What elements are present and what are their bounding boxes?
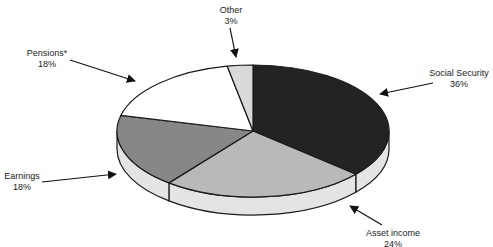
label-asset-income: Asset income 24% bbox=[355, 228, 431, 247]
label-pensions-name: Pensions* bbox=[22, 48, 72, 59]
label-asset-income-pct: 24% bbox=[355, 239, 431, 247]
label-asset-income-name: Asset income bbox=[355, 228, 431, 239]
arrow-other bbox=[230, 28, 236, 57]
label-pensions-pct: 18% bbox=[22, 59, 72, 70]
label-pensions: Pensions* 18% bbox=[22, 48, 72, 70]
label-social-security-name: Social Security bbox=[425, 68, 493, 79]
label-other-name: Other bbox=[215, 5, 247, 16]
pie-top-face bbox=[117, 65, 389, 197]
label-other-pct: 3% bbox=[215, 16, 247, 27]
label-earnings-pct: 18% bbox=[0, 182, 44, 193]
label-other: Other 3% bbox=[215, 5, 247, 27]
label-social-security: Social Security 36% bbox=[425, 68, 493, 90]
arrow-earnings bbox=[42, 174, 116, 182]
label-social-security-pct: 36% bbox=[425, 79, 493, 90]
pie-chart bbox=[0, 0, 493, 247]
label-earnings: Earnings 18% bbox=[0, 171, 44, 193]
arrow-pensions bbox=[70, 60, 135, 81]
arrow-asset-income bbox=[350, 206, 382, 225]
label-earnings-name: Earnings bbox=[0, 171, 44, 182]
